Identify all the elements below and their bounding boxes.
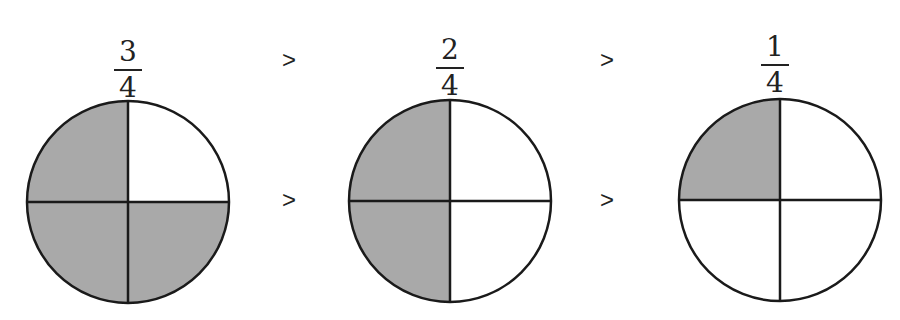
fraction-label-one-quarter: 1 4	[755, 33, 795, 97]
denominator: 4	[755, 66, 795, 97]
greater-than-symbol-top-2: >	[600, 46, 614, 74]
circle-one-quarter	[679, 99, 881, 301]
greater-than-symbol-middle-1: >	[282, 186, 296, 214]
numerator: 2	[430, 36, 470, 67]
quarter-top-left-shaded	[679, 99, 780, 200]
circle-two-quarters	[349, 100, 551, 302]
greater-than-symbol-top-1: >	[282, 46, 296, 74]
circle-three-quarters	[27, 101, 229, 303]
quarter-bottom-right-shaded	[128, 202, 229, 303]
denominator: 4	[430, 69, 470, 100]
quarter-top-left-shaded	[27, 101, 128, 202]
denominator: 4	[108, 71, 148, 102]
quarter-bottom-left-shaded	[27, 202, 128, 303]
fraction-label-two-quarters: 2 4	[430, 36, 470, 100]
quarter-bottom-left-shaded	[349, 201, 450, 302]
greater-than-symbol-middle-2: >	[600, 186, 614, 214]
quarter-top-left-shaded	[349, 100, 450, 201]
numerator: 1	[755, 33, 795, 64]
fraction-label-three-quarters: 3 4	[108, 38, 148, 102]
numerator: 3	[108, 38, 148, 69]
